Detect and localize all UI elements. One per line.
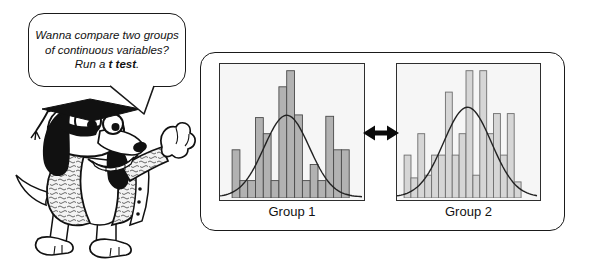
histogram-bar bbox=[480, 71, 487, 198]
histogram-bar bbox=[452, 155, 459, 198]
histogram-bar bbox=[302, 181, 310, 198]
speech-bubble: Wanna compare two groups of continuous v… bbox=[28, 13, 186, 87]
histogram-bar bbox=[425, 175, 432, 198]
histogram-bar bbox=[466, 71, 473, 198]
group2-label: Group 2 bbox=[396, 204, 541, 220]
double-arrow-icon bbox=[363, 124, 399, 142]
dog-paw bbox=[161, 123, 195, 158]
speech-line-2: of continuous variables? bbox=[45, 43, 169, 58]
speech-bubble-tail bbox=[106, 85, 158, 117]
histogram-bar bbox=[459, 134, 466, 198]
histogram-bar bbox=[310, 165, 318, 199]
histogram-svg bbox=[397, 64, 538, 198]
dog-left-ear bbox=[43, 111, 70, 176]
dog-mascot-illustration bbox=[4, 97, 196, 261]
histogram-bar bbox=[318, 181, 326, 198]
speech-line-1: Wanna compare two groups bbox=[35, 28, 179, 43]
histogram-bar bbox=[287, 71, 295, 198]
dog-pupil-right bbox=[112, 123, 120, 131]
dog-tail bbox=[16, 175, 50, 205]
histogram-bar bbox=[445, 92, 452, 198]
histogram-bar bbox=[248, 181, 256, 198]
period-text: . bbox=[136, 58, 139, 70]
group2-histogram-panel bbox=[396, 63, 541, 201]
statistics-cartoon-figure: Wanna compare two groups of continuous v… bbox=[0, 0, 590, 261]
histogram-bar bbox=[271, 181, 279, 198]
histogram-bar bbox=[507, 114, 514, 198]
histogram-svg bbox=[220, 64, 362, 198]
histogram-bar bbox=[418, 134, 425, 198]
run-a-text: Run a bbox=[75, 58, 109, 70]
histogram-bar bbox=[341, 150, 349, 198]
group1-histogram-panel bbox=[219, 63, 365, 201]
t-test-text: t test bbox=[109, 58, 136, 70]
histogram-bar bbox=[295, 115, 303, 198]
histogram-bar bbox=[263, 134, 271, 198]
histogram-bar bbox=[439, 155, 446, 198]
histogram-bar bbox=[473, 175, 480, 198]
group1-label: Group 1 bbox=[219, 204, 365, 220]
histogram-bar bbox=[500, 155, 507, 198]
speech-line-3: Run a t test. bbox=[75, 57, 140, 72]
histogram-bar bbox=[279, 87, 287, 198]
